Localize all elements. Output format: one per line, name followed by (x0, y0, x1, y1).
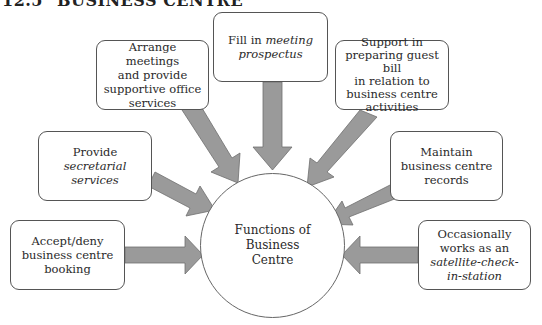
arrow-diagonal-icon (307, 110, 377, 187)
node-text: and provide (103, 68, 202, 82)
center-line: Business (235, 238, 311, 253)
node-text: business centre (401, 159, 493, 173)
arrow-down-icon (253, 82, 292, 170)
node-text-italic: in-station (430, 269, 518, 283)
arrow-diagonal-icon (148, 172, 215, 216)
node-text-italic: secretarial (64, 159, 127, 173)
arrow-right-icon (125, 236, 203, 274)
center-line: Centre (235, 253, 311, 268)
node-text: Arrange meetings (103, 40, 202, 68)
arrow-left-icon (342, 236, 418, 274)
node-guest-bill: Support in preparing guest bill in relat… (335, 40, 449, 110)
node-text: Provide (64, 145, 127, 159)
node-meeting-prospectus: Fill in meeting prospectus (213, 12, 328, 82)
node-accept-deny-booking: Accept/deny business centre booking (10, 220, 125, 290)
node-text: services (103, 96, 202, 110)
arrow-diagonal-icon (182, 103, 240, 183)
node-text: Accept/deny (22, 234, 114, 248)
node-text: activities (339, 101, 445, 114)
node-text-italic: satellite-check- (430, 255, 518, 269)
node-satellite-check-in: Occasionally works as an satellite-check… (418, 220, 531, 290)
node-text: Maintain (401, 145, 493, 159)
node-secretarial-services: Provide secretarial services (38, 131, 152, 201)
node-text-italic: meeting (265, 33, 313, 47)
center-line: Functions of (235, 223, 311, 238)
node-text: Occasionally (430, 227, 518, 241)
central-node-functions: Functions of Business Centre (200, 173, 345, 318)
node-text: preparing guest bill (339, 49, 445, 75)
node-maintain-records: Maintain business centre records (390, 131, 503, 201)
node-text-italic: services (64, 173, 127, 187)
node-text: records (401, 173, 493, 187)
node-text: supportive office (103, 82, 202, 96)
node-text-italic: prospectus (228, 47, 313, 61)
node-arrange-meetings: Arrange meetings and provide supportive … (96, 40, 209, 110)
node-text: works as an (430, 241, 518, 255)
node-text: booking (22, 262, 114, 276)
node-text: business centre (22, 248, 114, 262)
node-text: Fill in (228, 33, 265, 47)
